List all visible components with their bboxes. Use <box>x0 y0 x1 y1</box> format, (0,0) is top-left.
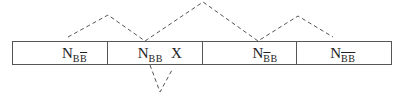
upper-dashed-line <box>68 2 333 41</box>
cell-3-label: NBB <box>253 45 278 67</box>
cell-2-main: N <box>138 45 149 61</box>
cell-3-sub-a: B <box>263 53 270 64</box>
cell-1-main: N <box>62 45 73 61</box>
cell-4-label: NBB <box>330 45 355 67</box>
cell-3-sub-b: B <box>271 53 278 64</box>
linkage-diagram: NBB NBBX NBB NBB <box>0 0 401 100</box>
cell-1-sub: BB <box>73 53 87 64</box>
cell-1-sub-a: B <box>73 53 80 64</box>
cell-row: NBB NBBX NBB NBB <box>12 41 392 65</box>
cell-3-sub: BB <box>263 53 277 64</box>
cell-4-sub: BB <box>341 53 355 64</box>
cell-3: NBB <box>203 42 298 64</box>
cell-2-label: NBBX <box>138 45 182 67</box>
cell-4-main: N <box>330 45 341 61</box>
cell-1-label: NBB <box>62 45 87 67</box>
cell-2-suffix: X <box>171 45 182 61</box>
cell-1: NBB <box>13 42 108 64</box>
cell-2-sub: BB <box>149 53 163 64</box>
cell-1-sub-b: B <box>80 53 87 64</box>
cell-3-main: N <box>253 45 264 61</box>
lower-dashed-v <box>150 65 172 92</box>
cell-2: NBBX <box>108 42 203 64</box>
cell-4: NBB <box>297 42 391 64</box>
